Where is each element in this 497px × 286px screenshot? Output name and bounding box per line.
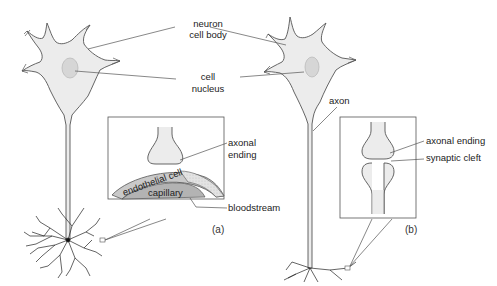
inset-b-caption: (b) <box>405 224 417 235</box>
left-terminal-marker <box>100 238 105 242</box>
inset-b: axonal ending synaptic cleft (b) <box>340 117 485 266</box>
left-axon-terminal-arbor <box>24 208 102 278</box>
right-cell-nucleus <box>305 57 319 77</box>
bloodstream-label: bloodstream <box>228 202 280 213</box>
capillary-label: capillary <box>148 187 183 198</box>
axon-label: axon <box>329 95 350 106</box>
inset-a-axonal-label-line2: ending <box>228 149 257 160</box>
inset-a-axonal-label-line1: axonal <box>228 137 256 148</box>
nucleus-label-line2: nucleus <box>192 83 225 94</box>
left-cell-body <box>22 23 120 240</box>
inset-a: endothelial cell capillary axonal ending… <box>105 117 280 240</box>
neuron-diagram: neuron cell body cell nucleus axon endot… <box>0 0 497 286</box>
cell-body-label-line2: cell body <box>189 29 227 40</box>
nucleus-label-line1: cell <box>201 71 215 82</box>
inset-b-axonal-ending-label: axonal ending <box>426 135 485 146</box>
right-terminal-marker <box>345 266 350 270</box>
left-cell-nucleus <box>62 58 78 78</box>
inset-a-caption: (a) <box>212 224 224 235</box>
cell-body-label-line1: neuron <box>193 18 223 29</box>
synaptic-cleft-label: synaptic cleft <box>426 152 481 163</box>
right-axon-terminals <box>284 262 356 282</box>
